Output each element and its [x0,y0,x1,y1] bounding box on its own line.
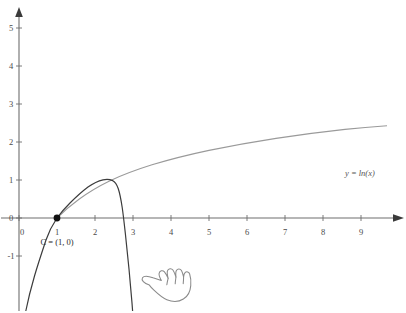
ln-curve [57,126,387,218]
x-tick-label-8: 8 [321,227,325,237]
y-tick-label-neg1: -1 [7,251,14,261]
point-c-marker[interactable] [54,215,61,222]
x-tick-label-1: 1 [55,227,59,237]
x-tick-label-5: 5 [207,227,211,237]
x-tick-label-9: 9 [359,227,363,237]
x-tick-label-7: 7 [283,227,287,237]
y-tick-label-5: 5 [9,23,13,33]
y-tick-label-3: 3 [9,99,13,109]
x-tick-label-2: 2 [93,227,97,237]
y-tick-label-4: 4 [9,61,14,71]
y-tick-labels: -1 0 1 2 3 4 5 [7,23,14,261]
graph-canvas: 0 1 2 3 4 5 6 7 8 9 -1 0 1 2 3 4 [0,0,406,313]
y-axis-arrowhead [15,7,23,17]
x-tick-label-4: 4 [169,227,174,237]
x-axis-arrowhead [393,214,404,222]
y-tick-label-2: 2 [9,137,13,147]
x-tick-label-3: 3 [131,227,135,237]
y-tick-label-1: 1 [9,175,13,185]
function-plot: 0 1 2 3 4 5 6 7 8 9 -1 0 1 2 3 4 [0,0,406,313]
x-tick-labels: 0 1 2 3 4 5 6 7 8 9 [20,227,363,237]
x-tick-label-0: 0 [20,227,24,237]
axes-group [1,7,404,311]
point-c-label: C = (1, 0) [40,237,73,247]
pointing-hand-cursor-icon[interactable] [142,269,191,302]
x-tick-label-6: 6 [245,227,249,237]
y-tick-label-0: 0 [9,213,13,223]
ln-curve-label: y = ln(x) [344,168,375,178]
